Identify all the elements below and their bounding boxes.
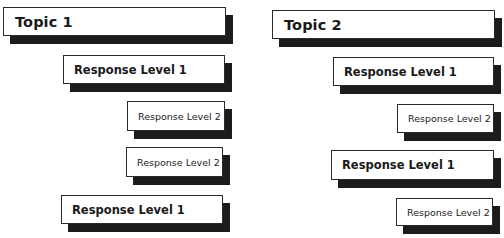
topic-2-label: Topic 2: [273, 17, 342, 33]
response-label: Response Level 1: [332, 158, 455, 172]
response-label: Response Level 2: [397, 207, 490, 218]
response-label: Response Level 1: [64, 63, 187, 77]
topic-1-response-level-1-b: Response Level 1: [61, 195, 223, 224]
topic-2-box: Topic 2: [272, 10, 495, 39]
topic-2-response-level-2-b: Response Level 2: [396, 198, 493, 226]
response-label: Response Level 2: [398, 113, 491, 124]
topic-2-response-level-1-a: Response Level 1: [333, 57, 494, 86]
topic-2-response-level-1-b: Response Level 1: [331, 150, 494, 180]
response-label: Response Level 1: [334, 65, 457, 79]
response-label: Response Level 2: [127, 157, 220, 168]
topic-1-response-level-2-b: Response Level 2: [126, 147, 223, 177]
response-label: Response Level 1: [62, 203, 185, 217]
topic-1-response-level-1-a: Response Level 1: [63, 55, 225, 84]
topic-1-box: Topic 1: [3, 7, 226, 36]
topic-1-label: Topic 1: [4, 14, 73, 30]
response-label: Response Level 2: [128, 111, 221, 122]
topic-2-response-level-2-a: Response Level 2: [397, 104, 494, 133]
topic-1-response-level-2-a: Response Level 2: [127, 101, 225, 131]
